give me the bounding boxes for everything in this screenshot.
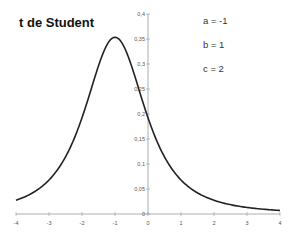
x-tick-label: 2: [212, 220, 215, 226]
param-b: b = 1: [203, 39, 224, 50]
y-tick-label: 0,15: [134, 136, 145, 142]
x-tick-label: 0: [146, 220, 149, 226]
y-tick-label: 0,35: [134, 36, 145, 42]
x-tick-label: -4: [14, 220, 19, 226]
x-tick-label: 4: [278, 220, 281, 226]
param-c: c = 2: [203, 63, 224, 74]
param-a: a = -1: [203, 15, 228, 26]
x-tick-label: -3: [47, 220, 52, 226]
y-tick-label: 0,4: [137, 11, 145, 17]
y-tick-label: 0,3: [137, 61, 145, 67]
x-tick-label: -2: [80, 220, 85, 226]
y-tick-label: 0,2: [137, 111, 145, 117]
x-tick-label: -1: [113, 220, 118, 226]
chart-title: t de Student: [19, 15, 95, 30]
y-tick-label: 0,1: [137, 161, 145, 167]
y-tick-label: 0,05: [134, 186, 145, 192]
y-tick-label: 0: [142, 211, 145, 217]
x-tick-label: 1: [179, 220, 182, 226]
student-t-chart: t de Student a = -1 b = 1 c = 2 00,050,1…: [0, 0, 296, 235]
x-tick-label: 3: [245, 220, 248, 226]
params-annotation: a = -1 b = 1 c = 2: [203, 15, 228, 74]
